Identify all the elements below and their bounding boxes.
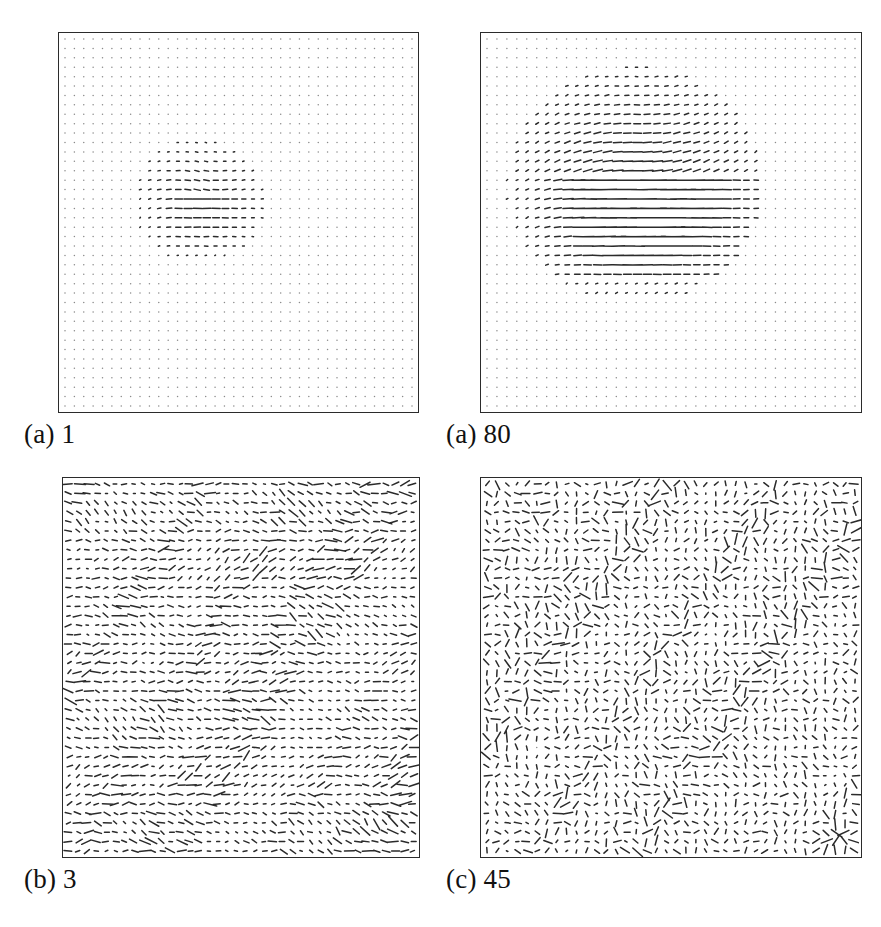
quiver-panel-panel-a-80 bbox=[480, 32, 862, 413]
vector-arrows bbox=[481, 479, 862, 856]
panel-label-panel-b-3: (b) 3 bbox=[24, 866, 77, 893]
grid-dots bbox=[64, 38, 413, 407]
panel-vector-canvas-panel-a-1 bbox=[58, 32, 419, 413]
panel-vector-canvas-panel-a-80 bbox=[480, 32, 862, 413]
vector-arrows bbox=[62, 481, 420, 854]
quiver-panel-panel-c-45 bbox=[480, 477, 862, 858]
quiver-panel-panel-a-1 bbox=[58, 32, 419, 413]
panel-vector-canvas-panel-b-3 bbox=[62, 477, 420, 858]
figure-quiver-grid: (a) 1(a) 80(b) 3(c) 45 bbox=[0, 0, 881, 927]
grid-dots bbox=[536, 747, 538, 749]
panel-label-panel-c-45: (c) 45 bbox=[446, 866, 511, 893]
grid-dots bbox=[486, 38, 856, 407]
quiver-panel-panel-b-3 bbox=[62, 477, 420, 858]
panel-label-panel-a-80: (a) 80 bbox=[446, 421, 511, 448]
panel-vector-canvas-panel-c-45 bbox=[480, 477, 862, 858]
panel-label-panel-a-1: (a) 1 bbox=[24, 421, 75, 448]
vector-arrows bbox=[139, 142, 263, 255]
vector-arrows bbox=[506, 67, 758, 293]
